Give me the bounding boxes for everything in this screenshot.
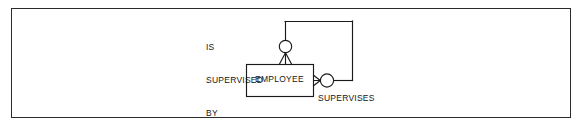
relationship-label-supervises: SUPERVISES (318, 93, 375, 104)
er-diagram-graphics (0, 0, 583, 127)
cardinality-marker-is-supervised-by (279, 40, 291, 64)
cardinality-marker-supervises (314, 74, 334, 87)
optional-circle-icon (279, 40, 291, 52)
crows-foot-icon (280, 53, 292, 64)
er-diagram-canvas: IS SUPERVISED BY SUPERVISES EMPLOYEE (0, 0, 583, 127)
entity-label-employee: EMPLOYEE (246, 74, 313, 85)
relationship-label-line: BY (206, 108, 263, 119)
crows-foot-icon (314, 75, 321, 86)
relationship-label-line: IS (206, 42, 263, 53)
optional-circle-icon (320, 74, 333, 87)
